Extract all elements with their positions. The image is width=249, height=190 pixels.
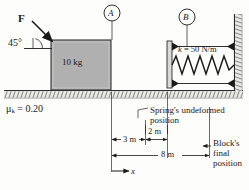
block-note-line3: position <box>213 158 242 168</box>
dimension-3m-label: 3 m <box>123 135 136 145</box>
spring-note-line1: Spring's undeformed <box>150 105 225 115</box>
marker-b-label: B <box>183 12 189 22</box>
mu-value: 0.20 <box>25 103 43 114</box>
block-note-line1: Block's <box>213 138 240 148</box>
x-axis-label: x <box>131 166 135 176</box>
dimension-8m-label: 8 m <box>161 150 174 160</box>
k-value: = 50 N/m <box>184 44 217 54</box>
spring-note-line2: position <box>150 115 179 125</box>
figure-canvas <box>0 0 249 190</box>
spring-undeformed-annotation: Spring's undeformed position <box>150 105 225 125</box>
block-final-annotation: Block's final position <box>213 138 242 168</box>
angle-indicator <box>24 38 52 49</box>
k-symbol: k <box>178 44 182 54</box>
angle-label: 45° <box>8 37 22 48</box>
marker-a-label: A <box>108 8 114 18</box>
mu-equals: = <box>15 103 26 114</box>
mechanics-figure: F 45° 10 kg μk = 0.20 k = 50 N/m A B 3 m… <box>0 0 249 190</box>
right-wall <box>235 14 243 91</box>
block-note-line2: final <box>213 148 230 158</box>
force-label: F <box>18 12 25 24</box>
dimension-2m-label: 2 m <box>148 127 161 137</box>
block-mass-label: 10 kg <box>62 57 82 67</box>
ground-surface <box>4 91 243 99</box>
friction-coefficient-label: μk = 0.20 <box>6 103 43 115</box>
spring-stiffness-label: k = 50 N/m <box>178 45 217 55</box>
force-arrow <box>32 21 53 42</box>
